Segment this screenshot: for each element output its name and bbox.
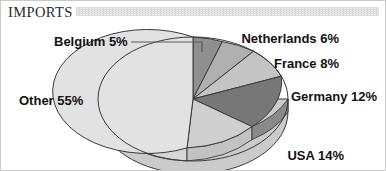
pie-label-other: Other 55% [19,94,83,107]
pie-label-netherlands: Netherlands 6% [241,32,339,45]
pie-chart [1,1,386,171]
imports-pie-chart-figure: IMPORTS [0,0,386,171]
pie-label-belgium: Belgium 5% [54,35,128,48]
pie-label-france: France 8% [274,57,339,70]
pie-chart-svg [1,1,386,171]
pie-label-germany: Germany 12% [291,90,377,103]
pie-label-usa: USA 14% [287,149,344,162]
